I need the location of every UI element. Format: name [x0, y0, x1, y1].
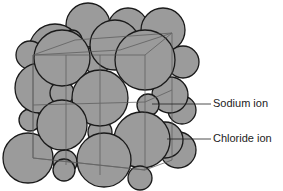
ion-spheres — [3, 3, 199, 190]
sodium-ion-label: Sodium ion — [213, 98, 268, 109]
chloride-ion-label: Chloride ion — [213, 133, 272, 144]
nacl-lattice-diagram — [0, 0, 283, 191]
